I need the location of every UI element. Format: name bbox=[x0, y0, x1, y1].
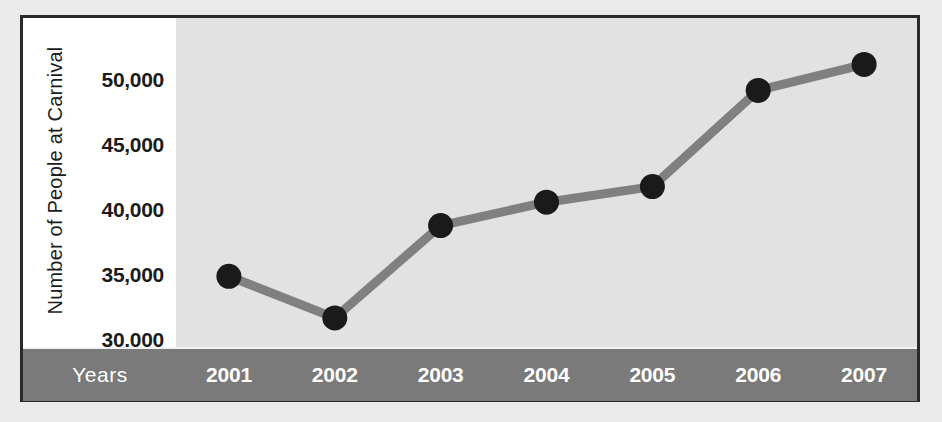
y-tick-label: 50,000 bbox=[74, 68, 164, 92]
y-tick-label: 40,000 bbox=[74, 198, 164, 222]
data-point-marker bbox=[640, 174, 665, 199]
x-category-label: 2006 bbox=[735, 363, 781, 387]
x-category-label: 2007 bbox=[841, 363, 887, 387]
y-axis-title: Number of People at Carnival bbox=[44, 31, 67, 331]
x-axis-title: Years bbox=[72, 363, 127, 387]
y-tick-label: 35,000 bbox=[74, 263, 164, 287]
line-series-svg bbox=[176, 18, 917, 347]
chart-frame: Number of People at Carnival 50,00045,00… bbox=[20, 15, 920, 402]
x-category-label: 2001 bbox=[206, 363, 252, 387]
y-tick-label: 45,000 bbox=[74, 133, 164, 157]
x-category-label: 2002 bbox=[312, 363, 358, 387]
data-point-marker bbox=[322, 305, 347, 330]
plot-area bbox=[176, 18, 917, 347]
y-axis-panel: Number of People at Carnival 50,00045,00… bbox=[23, 18, 176, 347]
data-point-marker bbox=[428, 213, 453, 238]
chart-figure: Number of People at Carnival 50,00045,00… bbox=[0, 0, 942, 422]
x-category-label: 2005 bbox=[629, 363, 675, 387]
x-category-label: 2003 bbox=[418, 363, 464, 387]
data-point-marker bbox=[216, 264, 241, 289]
series-marker-group bbox=[216, 52, 876, 331]
data-point-marker bbox=[746, 78, 771, 103]
x-category-label: 2004 bbox=[524, 363, 570, 387]
data-point-marker bbox=[852, 52, 877, 77]
data-point-marker bbox=[534, 190, 559, 215]
x-axis-band: Years 2001200220032004200520062007 bbox=[23, 347, 917, 401]
